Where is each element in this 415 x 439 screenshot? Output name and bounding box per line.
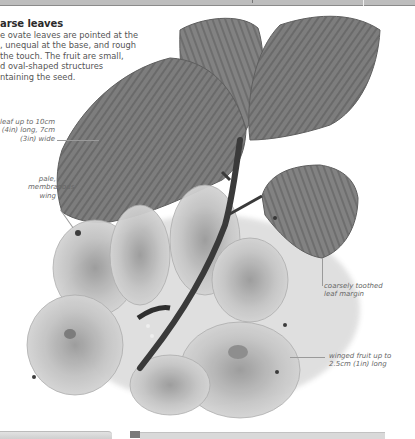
leader-line-leaf-size [57,140,99,141]
body-line: the touch. The fruit are small, [0,51,125,61]
footer-tab-left [0,431,112,439]
body-line: e ovate leaves are pointed at the [0,30,125,40]
annotation-wing: pale, membranous wing [28,175,56,200]
body-line: ntaining the seed. [0,72,125,82]
leaf-upper-right [249,16,380,140]
annotation-margin: coarsely toothed leaf margin [324,282,383,299]
footer-band-right [140,432,385,439]
section-heading: arse leaves [0,18,63,29]
annotation-leaf-size: leaf up to 10cm (4in) long, 7cm (3in) wi… [0,118,55,143]
leader-line-fruit [290,357,325,358]
annotation-fruit: winged fruit up to 2.5cm (1in) long [329,352,391,369]
body-line: , unequal at the base, and rough [0,40,125,50]
leader-line-margin [322,258,323,286]
footer-marker [130,431,140,438]
body-line: d oval-shaped structures [0,61,125,71]
section-body: e ovate leaves are pointed at the , uneq… [0,30,125,82]
